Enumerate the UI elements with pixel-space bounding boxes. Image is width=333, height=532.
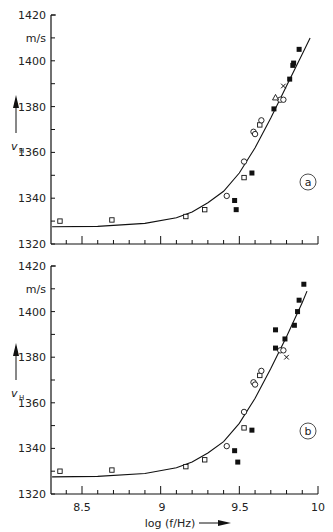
panel-b xyxy=(51,266,318,494)
y-symbol-a: v xyxy=(11,140,18,153)
y-symbol-b: v xyxy=(11,387,18,400)
chart-figure: 1420 m/s 1400 1380 1360 1340 1320 v H a … xyxy=(0,0,333,532)
y-tick-1420-a: 1420 xyxy=(18,9,46,22)
y-unit-label-a: m/s xyxy=(26,32,46,45)
panel-badge-a: a xyxy=(300,174,316,190)
x-tick-8.5: 8.5 xyxy=(73,501,91,514)
fit-curve xyxy=(52,291,307,477)
x-axis-label: log (f/Hz) xyxy=(145,517,195,530)
y-tick-1400-a: 1400 xyxy=(18,55,46,68)
y-tick-1380-a: 1380 xyxy=(18,101,46,114)
fit-curve xyxy=(52,38,310,227)
x-tick-9: 9 xyxy=(159,501,166,514)
y-tick-1380-b: 1380 xyxy=(18,351,46,364)
y-symbol-sub-a: H xyxy=(19,147,24,155)
y-tick-1340-a: 1340 xyxy=(18,192,46,205)
panel-badge-b: b xyxy=(300,423,316,439)
y-tick-1400-b: 1400 xyxy=(18,306,46,319)
x-tick-10: 10 xyxy=(311,501,325,514)
x-tick-9.5: 9.5 xyxy=(231,501,249,514)
panel-a xyxy=(51,15,318,244)
x-axis-arrow-icon xyxy=(199,520,231,526)
y-tick-1320-a: 1320 xyxy=(18,238,46,251)
y-tick-1340-b: 1340 xyxy=(18,442,46,455)
svg-text:b: b xyxy=(305,425,312,438)
y-tick-1420-b: 1420 xyxy=(18,260,46,273)
svg-text:a: a xyxy=(305,176,312,189)
y-symbol-sub-b: H xyxy=(19,394,24,402)
y-unit-label-b: m/s xyxy=(26,283,46,296)
y-tick-1320-b: 1320 xyxy=(18,488,46,501)
